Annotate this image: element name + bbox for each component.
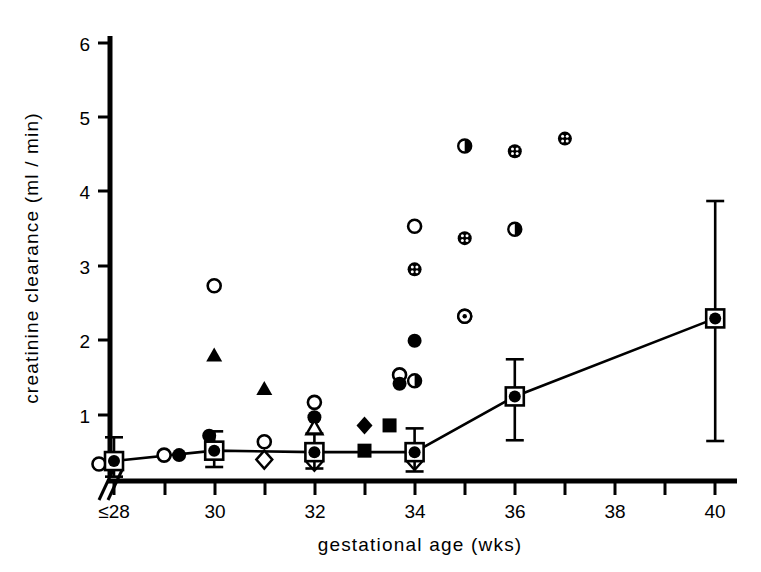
data-series-layer — [92, 132, 724, 477]
data-point-open-circle — [408, 220, 421, 233]
data-point-circle-with-dot — [458, 310, 471, 323]
data-point-dotted-filled-circle — [508, 144, 522, 158]
data-point-filled-circle — [393, 377, 407, 391]
y-tick-label-3: 3 — [79, 257, 90, 278]
x-tick-label-28: ≤28 — [98, 501, 130, 522]
x-tick-label-30: 30 — [204, 501, 225, 522]
y-axis-ticks: 6 5 4 3 2 1 — [79, 34, 110, 427]
y-tick-label-1: 1 — [79, 406, 90, 427]
data-point-filled-triangle — [256, 381, 272, 395]
data-point-open-circle — [208, 279, 221, 292]
mean-marker — [406, 443, 424, 461]
y-tick-label-5: 5 — [79, 108, 90, 129]
data-point-open-circle — [158, 449, 171, 462]
mean-marker — [506, 387, 524, 405]
data-point-dotted-filled-circle — [458, 231, 472, 245]
y-tick-label-2: 2 — [79, 331, 90, 352]
figure-container: 6 5 4 3 2 1 ≤28 30 32 34 36 — [0, 0, 761, 572]
mean-marker — [305, 443, 323, 461]
x-tick-label-38: 38 — [604, 501, 625, 522]
data-point-open-circle — [258, 435, 271, 448]
data-point-filled-square — [358, 444, 372, 458]
data-point-filled-triangle — [206, 348, 222, 362]
y-tick-label-4: 4 — [79, 182, 90, 203]
mean-marker — [105, 452, 123, 470]
x-tick-label-32: 32 — [304, 501, 325, 522]
scatter-plot: 6 5 4 3 2 1 ≤28 30 32 34 36 — [0, 0, 761, 572]
x-tick-label-36: 36 — [504, 501, 525, 522]
data-point-open-circle — [308, 396, 321, 409]
data-point-half-filled-circle — [508, 223, 521, 236]
data-point-half-filled-circle — [408, 374, 421, 387]
data-point-open-triangle — [306, 420, 322, 434]
x-axis-title: gestational age (wks) — [318, 534, 523, 555]
x-tick-label-40: 40 — [704, 501, 725, 522]
data-point-half-filled-circle — [458, 140, 471, 153]
x-axis-ticks: ≤28 30 32 34 36 38 40 — [98, 481, 725, 522]
data-point-filled-square — [383, 418, 397, 432]
data-point-filled-diamond — [357, 416, 373, 434]
data-point-dotted-filled-circle — [558, 132, 572, 146]
x-tick-label-34: 34 — [404, 501, 426, 522]
data-point-open-diamond — [256, 451, 272, 469]
y-axis-title: creatinine clearance (ml / min) — [21, 112, 42, 404]
data-point-open-circle — [92, 458, 105, 471]
mean-marker — [205, 442, 223, 460]
data-point-dotted-filled-circle — [408, 262, 422, 276]
data-point-filled-circle — [172, 448, 186, 462]
data-point-filled-circle — [408, 334, 422, 348]
y-tick-label-6: 6 — [79, 34, 90, 55]
mean-marker — [706, 309, 724, 327]
